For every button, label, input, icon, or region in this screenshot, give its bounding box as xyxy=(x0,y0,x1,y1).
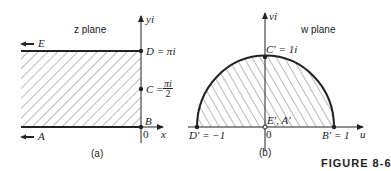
point-d xyxy=(139,49,143,53)
figure-caption: FIGURE 8-6 xyxy=(321,157,391,169)
z-plane-label: z plane xyxy=(74,25,106,35)
x-axis-label: x xyxy=(161,129,166,139)
w-plane-label: w plane xyxy=(301,25,335,35)
y-axis-label: yi xyxy=(146,14,154,24)
v-axis-label: vi xyxy=(269,11,277,21)
label-ea-prime: E′, A′ xyxy=(267,115,291,125)
label-c-fraction: πi 2 xyxy=(163,79,173,98)
label-c-prime: C′ = 1i xyxy=(266,44,297,54)
label-d-prime: D′ = −1 xyxy=(189,130,225,140)
label-e: E xyxy=(38,38,45,48)
label-b-prime: B′ = 1 xyxy=(322,130,350,140)
origin-label-b: 0 xyxy=(266,129,272,139)
arrow-a-icon xyxy=(20,135,34,140)
origin-label-a: 0 xyxy=(143,129,149,139)
sublabel-a: (a) xyxy=(91,149,103,159)
panel-a xyxy=(20,16,163,143)
label-c-prefix: C = xyxy=(146,84,164,94)
label-b: B xyxy=(145,116,152,126)
label-a: A xyxy=(38,131,45,141)
label-d: D = πi xyxy=(146,46,175,56)
sublabel-b: (b) xyxy=(259,148,271,158)
fraction-denominator: 2 xyxy=(163,89,173,98)
point-c xyxy=(139,87,143,91)
u-axis-label: u xyxy=(360,129,366,139)
point-c-prime xyxy=(263,55,267,59)
arrow-e-icon xyxy=(20,42,34,47)
z-strip-region xyxy=(21,51,141,127)
